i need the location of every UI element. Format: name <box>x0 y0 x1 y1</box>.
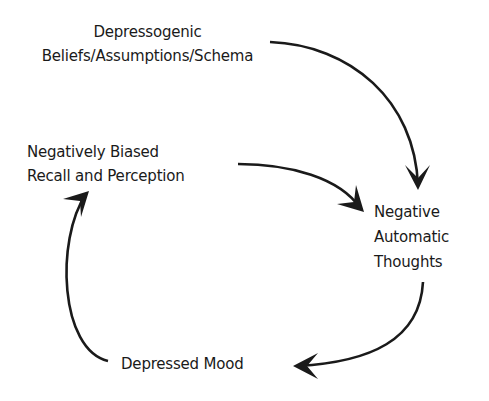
arrow-beliefs-to-thoughts <box>270 42 418 186</box>
node-beliefs: Depressogenic Beliefs/Assumptions/Schema <box>25 20 270 68</box>
node-beliefs-line-2: Beliefs/Assumptions/Schema <box>25 44 270 68</box>
arrow-mood-to-recall <box>67 194 108 361</box>
node-recall: Negatively Biased Recall and Perception <box>27 140 185 188</box>
arrow-recall-to-thoughts <box>238 164 360 208</box>
node-nat-line-2: Automatic <box>374 225 449 250</box>
node-recall-line-1: Negatively Biased <box>27 140 185 164</box>
node-depressed-mood: Depressed Mood <box>121 352 244 376</box>
arrow-thoughts-to-mood <box>298 282 423 366</box>
node-beliefs-line-1: Depressogenic <box>25 20 270 44</box>
node-recall-line-2: Recall and Perception <box>27 164 185 188</box>
node-nat-line-3: Thoughts <box>374 250 449 275</box>
node-nat-line-1: Negative <box>374 200 449 225</box>
node-negative-automatic-thoughts: Negative Automatic Thoughts <box>374 200 449 275</box>
node-mood-line-1: Depressed Mood <box>121 352 244 376</box>
